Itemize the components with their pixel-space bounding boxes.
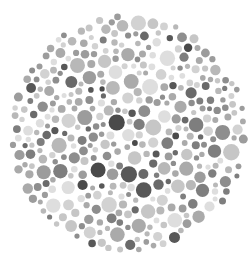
plate-dot <box>56 48 66 58</box>
plate-dot <box>43 53 50 60</box>
plate-dot <box>240 119 246 125</box>
plate-dot <box>109 114 125 130</box>
plate-dot <box>117 246 123 252</box>
plate-dot <box>132 140 138 146</box>
plate-dot <box>228 93 234 99</box>
plate-dot <box>12 105 17 110</box>
plate-dot <box>80 40 88 48</box>
plate-dot <box>101 197 116 212</box>
plate-dot <box>122 129 134 141</box>
plate-dot <box>144 239 150 245</box>
plate-dot <box>169 82 176 89</box>
plate-dot <box>143 71 148 76</box>
plate-dot <box>61 154 67 160</box>
plate-dot <box>212 117 218 123</box>
plate-dot <box>26 83 36 93</box>
plate-dot <box>29 143 34 148</box>
plate-dot <box>126 192 131 197</box>
plate-dot <box>29 68 35 74</box>
plate-dot <box>203 126 213 136</box>
plate-dot <box>98 55 111 68</box>
plate-dot <box>145 120 161 136</box>
plate-dot <box>208 77 213 82</box>
plate-dot <box>196 184 209 197</box>
plate-dot <box>22 162 27 167</box>
plate-dot <box>105 245 111 251</box>
plate-dot <box>135 41 141 47</box>
plate-dot <box>225 166 232 173</box>
plate-dot <box>194 82 200 88</box>
plate-dot <box>190 34 199 43</box>
plate-dot <box>101 93 106 98</box>
plate-dot <box>195 45 201 51</box>
plate-dot <box>171 180 185 194</box>
plate-dot <box>79 223 85 229</box>
plate-dot <box>98 99 105 106</box>
plate-dot <box>171 161 176 166</box>
plate-dot <box>148 138 158 148</box>
plate-dot <box>75 88 82 95</box>
plate-dot <box>215 88 221 94</box>
plate-dot <box>149 63 156 70</box>
plate-dot <box>141 204 155 218</box>
plate-dot <box>223 188 230 195</box>
plate-dot <box>63 200 74 211</box>
plate-dot <box>21 106 28 113</box>
plate-dot <box>161 137 173 149</box>
plate-dot <box>26 149 36 159</box>
plate-dot <box>106 81 120 95</box>
plate-dot <box>118 193 124 199</box>
plate-dot <box>128 110 135 117</box>
plate-dot <box>90 106 96 112</box>
plate-dot <box>38 101 48 111</box>
plate-dot <box>134 119 145 130</box>
plate-dot <box>133 31 138 36</box>
plate-dot <box>112 56 118 62</box>
plate-dot <box>77 110 92 125</box>
plate-dot <box>171 66 176 71</box>
plate-dot <box>116 210 123 217</box>
plate-dot <box>222 77 229 84</box>
plate-dot <box>67 99 73 105</box>
plate-dot <box>196 98 203 105</box>
plate-dot <box>208 144 221 157</box>
plate-dot <box>59 213 67 221</box>
plate-dot <box>53 77 60 84</box>
plate-dot <box>184 44 192 52</box>
plate-dot <box>127 119 133 125</box>
plate-dot <box>172 114 181 123</box>
plate-dot <box>210 136 216 142</box>
plate-dot <box>151 243 157 249</box>
plate-dot <box>198 134 203 139</box>
plate-dot <box>51 127 58 134</box>
plate-dot <box>37 64 43 70</box>
plate-dot <box>49 107 54 112</box>
plate-dot <box>210 65 220 75</box>
plate-dot <box>135 57 141 63</box>
plate-dot <box>37 165 51 179</box>
plate-dot <box>178 228 184 234</box>
plate-dot <box>201 142 207 148</box>
plate-dot <box>111 141 116 146</box>
plate-dot <box>139 51 146 58</box>
plate-dot <box>97 219 103 225</box>
plate-dot <box>219 198 226 205</box>
plate-dot <box>71 209 79 217</box>
plate-dot <box>69 152 80 163</box>
plate-dot <box>89 35 94 40</box>
plate-dot <box>201 49 210 58</box>
plate-dot <box>223 144 239 160</box>
plate-dot <box>136 131 143 138</box>
plate-dot <box>44 86 54 96</box>
plate-dot <box>169 93 177 101</box>
plate-dot <box>65 76 77 88</box>
plate-dot <box>39 155 48 164</box>
plate-dot <box>38 199 43 204</box>
plate-dot <box>99 183 105 189</box>
plate-dot <box>125 32 131 38</box>
plate-dot <box>156 207 164 215</box>
plate-dot <box>66 56 72 62</box>
plate-dot <box>83 71 96 84</box>
plate-dot <box>34 93 40 99</box>
plate-dot <box>165 153 173 161</box>
